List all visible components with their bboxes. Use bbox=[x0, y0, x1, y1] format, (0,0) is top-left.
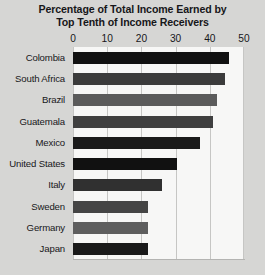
chart-title-line-1: Percentage of Total Income Earned by bbox=[8, 3, 257, 16]
y-tick-label-brazil: Brazil bbox=[42, 94, 65, 106]
y-tick-label-italy: Italy bbox=[48, 179, 65, 191]
y-tick-label-sweden: Sweden bbox=[31, 201, 65, 213]
x-tick-label-20: 20 bbox=[136, 33, 147, 45]
bar-guatemala[interactable] bbox=[73, 116, 213, 128]
x-tick-label-0: 0 bbox=[70, 33, 76, 45]
bar-united-states[interactable] bbox=[73, 158, 177, 170]
bar-colombia[interactable] bbox=[73, 52, 229, 64]
y-axis-category-labels: ColombiaSouth AfricaBrazilGuatemalaMexic… bbox=[0, 47, 69, 260]
bar-japan[interactable] bbox=[73, 243, 148, 255]
x-tick-label-40: 40 bbox=[204, 33, 215, 45]
y-tick-label-united-states: United States bbox=[9, 158, 65, 170]
bar-sweden[interactable] bbox=[73, 201, 148, 213]
y-tick-label-south-africa: South Africa bbox=[15, 73, 65, 85]
bar-germany[interactable] bbox=[73, 222, 148, 234]
chart-title: Percentage of Total Income Earned by Top… bbox=[8, 3, 257, 29]
y-tick-label-mexico: Mexico bbox=[36, 137, 66, 149]
x-tick-label-50: 50 bbox=[238, 33, 249, 45]
bar-south-africa[interactable] bbox=[73, 73, 225, 85]
x-axis-baseline bbox=[73, 259, 245, 260]
y-tick-label-germany: Germany bbox=[27, 222, 65, 234]
y-tick-label-colombia: Colombia bbox=[26, 52, 65, 64]
bar-brazil[interactable] bbox=[73, 94, 217, 106]
plot-area bbox=[73, 47, 244, 260]
x-tick-label-10: 10 bbox=[102, 33, 113, 45]
bar-italy[interactable] bbox=[73, 179, 162, 191]
y-tick-label-guatemala: Guatemala bbox=[19, 116, 65, 128]
chart-title-line-2: Top Tenth of Income Receivers bbox=[8, 16, 257, 29]
x-tick-label-30: 30 bbox=[170, 33, 181, 45]
bars-group bbox=[73, 47, 244, 260]
x-axis-tick-labels: 01020304050 bbox=[0, 33, 265, 46]
bar-chart-figure: Percentage of Total Income Earned by Top… bbox=[0, 0, 265, 275]
bar-mexico[interactable] bbox=[73, 137, 200, 149]
y-tick-label-japan: Japan bbox=[40, 243, 65, 255]
